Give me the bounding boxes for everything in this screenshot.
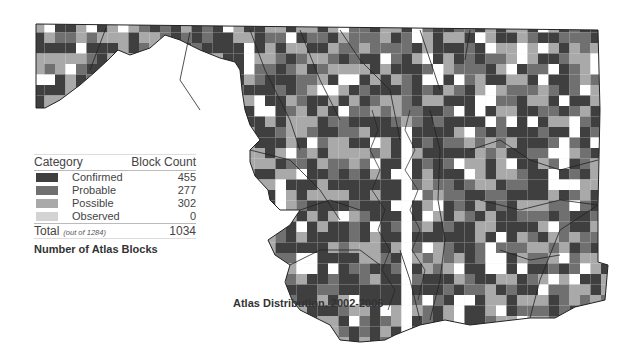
legend-row-possible: Possible 302 (34, 197, 196, 210)
legend-row-probable: Probable 277 (34, 184, 196, 197)
legend-count: 302 (178, 197, 196, 210)
legend-header: Category Block Count (34, 154, 196, 171)
possible-swatch-icon (36, 199, 58, 208)
map-title: Atlas Distribution, 2002-2006 (233, 297, 383, 309)
legend-count: 0 (190, 210, 196, 223)
legend: Category Block Count Confirmed 455 Proba… (34, 154, 196, 239)
legend-header-category: Category (34, 156, 83, 170)
legend-row-confirmed: Confirmed 455 (34, 171, 196, 184)
total-label: Total (34, 224, 59, 238)
legend-count: 277 (178, 184, 196, 197)
probable-swatch-icon (36, 186, 58, 195)
legend-label: Probable (72, 184, 178, 197)
legend-title: Number of Atlas Blocks (34, 243, 158, 255)
legend-header-count: Block Count (131, 156, 196, 170)
legend-total: Total(out of 1284) 1034 (34, 223, 196, 239)
confirmed-swatch-icon (36, 173, 58, 182)
total-count: 1034 (169, 224, 196, 238)
legend-count: 455 (178, 171, 196, 184)
legend-label: Confirmed (72, 171, 178, 184)
total-sub: (out of 1284) (63, 228, 106, 237)
legend-label: Observed (72, 210, 190, 223)
observed-swatch-icon (36, 212, 58, 221)
legend-label: Possible (72, 197, 178, 210)
legend-row-observed: Observed 0 (34, 210, 196, 223)
